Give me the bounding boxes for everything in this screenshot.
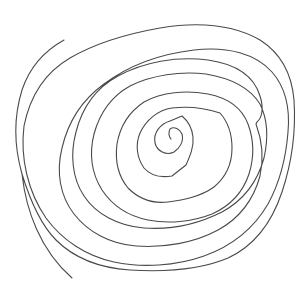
spiral-drawing (0, 0, 304, 299)
spiral-line (16, 25, 295, 278)
